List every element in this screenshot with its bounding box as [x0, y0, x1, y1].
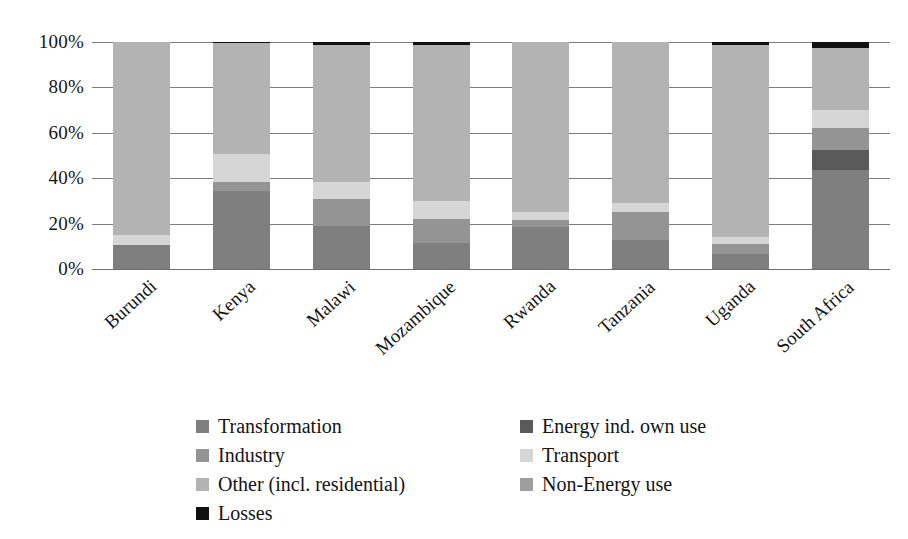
- plot-area: [92, 42, 890, 269]
- bar-segment: [413, 42, 470, 45]
- bar-segment: [313, 226, 370, 269]
- gridline: [92, 269, 890, 270]
- bar-segment: [213, 43, 270, 154]
- gridline: [92, 224, 890, 225]
- legend-item[interactable]: Transport: [520, 441, 706, 469]
- x-axis-label: Malawi: [302, 276, 360, 331]
- legend-swatch-icon: [196, 478, 209, 491]
- gridline: [92, 133, 890, 134]
- bar-segment: [712, 45, 769, 237]
- bar-segment: [413, 201, 470, 219]
- bar-segment: [712, 244, 769, 254]
- legend-swatch-icon: [196, 449, 209, 462]
- bar-segment: [213, 42, 270, 43]
- legend-item[interactable]: Transformation: [196, 412, 405, 440]
- bar-segment: [512, 227, 569, 269]
- x-axis-label: South Africa: [772, 276, 858, 357]
- bar-segment: [812, 42, 869, 48]
- bar-segment: [512, 212, 569, 220]
- gridline: [92, 87, 890, 88]
- legend-item[interactable]: Industry: [196, 441, 405, 469]
- bar-column: [213, 42, 270, 269]
- legend-swatch-icon: [520, 478, 533, 491]
- bar-segment: [812, 110, 869, 128]
- bar-segment: [512, 42, 569, 212]
- x-axis-label: Tanzania: [594, 276, 659, 338]
- bar-segment: [712, 42, 769, 45]
- legend-label: Industry: [218, 445, 285, 465]
- y-tick-label: 40%: [0, 167, 84, 189]
- legend-label: Non-Energy use: [542, 474, 672, 494]
- y-tick-label: 80%: [0, 76, 84, 98]
- y-tick-label: 0%: [0, 258, 84, 280]
- y-tick-label: 20%: [0, 213, 84, 235]
- bar-segment: [313, 199, 370, 226]
- x-axis-label: Burundi: [100, 276, 161, 334]
- x-axis-label: Mozambique: [371, 276, 460, 359]
- x-axis-label: Rwanda: [499, 276, 560, 334]
- legend-label: Transformation: [218, 416, 342, 436]
- y-axis-tick-labels: 100%80%60%40%20%0%: [0, 42, 84, 269]
- bar-column: [512, 42, 569, 269]
- x-axis-label: Uganda: [701, 276, 760, 332]
- bar-segment: [213, 182, 270, 191]
- bar-column: [712, 42, 769, 269]
- legend-swatch-icon: [196, 420, 209, 433]
- legend-label: Transport: [542, 445, 619, 465]
- x-axis-category-labels: BurundiKenyaMalawiMozambiqueRwandaTanzan…: [92, 272, 890, 392]
- bar-segment: [413, 219, 470, 243]
- bar-segment: [712, 237, 769, 244]
- bar-column: [413, 42, 470, 269]
- legend-label: Losses: [218, 503, 272, 523]
- legend-item[interactable]: Losses: [196, 499, 405, 527]
- bar-segment: [712, 254, 769, 269]
- bar-segment: [413, 45, 470, 200]
- legend-swatch-icon: [196, 507, 209, 520]
- bar-segment: [812, 128, 869, 150]
- bar-segment: [113, 42, 170, 235]
- legend-item[interactable]: Energy ind. own use: [520, 412, 706, 440]
- bar-column: [313, 42, 370, 269]
- bar-segment: [512, 220, 569, 228]
- gridline: [92, 178, 890, 179]
- legend-label: Energy ind. own use: [542, 416, 706, 436]
- legend-item[interactable]: Non-Energy use: [520, 470, 706, 498]
- bar-column: [612, 42, 669, 269]
- bar-column: [113, 42, 170, 269]
- stacked-bar-chart: 100%80%60%40%20%0% BurundiKenyaMalawiMoz…: [0, 0, 908, 539]
- bar-segment: [113, 235, 170, 245]
- bar-segment: [413, 243, 470, 269]
- bar-segment: [612, 203, 669, 212]
- bar-segment: [612, 42, 669, 203]
- bar-segment: [313, 45, 370, 182]
- bar-segment: [812, 48, 869, 110]
- y-tick-label: 100%: [0, 31, 84, 53]
- bar-column: [812, 42, 869, 269]
- legend-column-right: Energy ind. own useTransportNon-Energy u…: [520, 412, 706, 499]
- bar-segment: [612, 212, 669, 239]
- legend-column-left: TransformationIndustryOther (incl. resid…: [196, 412, 405, 528]
- legend-label: Other (incl. residential): [218, 474, 405, 494]
- legend-item[interactable]: Other (incl. residential): [196, 470, 405, 498]
- bar-segment: [213, 154, 270, 181]
- chart-legend: TransformationIndustryOther (incl. resid…: [196, 412, 856, 530]
- bar-segment: [313, 182, 370, 199]
- bar-segment: [113, 245, 170, 269]
- bar-segment: [812, 170, 869, 269]
- bar-segment: [612, 240, 669, 270]
- gridline: [92, 42, 890, 43]
- bar-segment: [213, 191, 270, 269]
- y-tick-label: 60%: [0, 122, 84, 144]
- bar-segment: [313, 42, 370, 45]
- legend-swatch-icon: [520, 449, 533, 462]
- legend-swatch-icon: [520, 420, 533, 433]
- x-axis-label: Kenya: [208, 276, 260, 326]
- bar-segment: [812, 150, 869, 170]
